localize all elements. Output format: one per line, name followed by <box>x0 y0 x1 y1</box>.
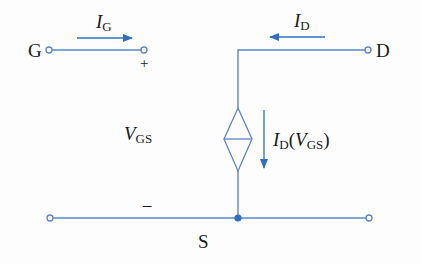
plus-sign: + <box>140 56 148 71</box>
source-label: S <box>198 232 209 251</box>
drain-wire <box>238 50 365 108</box>
gate-current-label: IG <box>96 12 112 31</box>
minus-sign: – <box>143 196 152 213</box>
source-right-terminal <box>366 215 372 221</box>
drain-label: D <box>376 41 390 60</box>
controlled-current-label: ID(VGS) <box>273 130 330 149</box>
gate-label: G <box>28 41 42 60</box>
circuit-wires <box>0 0 421 264</box>
source-left-terminal <box>47 215 53 221</box>
drain-current-label: ID <box>294 11 310 30</box>
circuit-diagram: G D S IG ID ID(VGS) VGS + – <box>0 0 421 264</box>
gate-terminal <box>46 47 52 53</box>
drain-terminal <box>365 47 371 53</box>
vgs-label: VGS <box>124 124 152 143</box>
gate-plus-terminal <box>141 47 147 53</box>
source-junction-dot <box>234 214 241 221</box>
